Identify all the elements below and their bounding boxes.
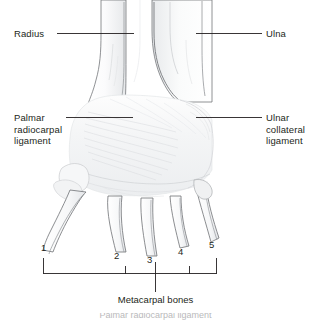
label-radius: Radius [14,28,44,40]
metacarpal-number-3: 3 [147,255,152,265]
metacarpal-number-4: 4 [178,247,183,257]
metacarpal-number-1: 1 [41,243,46,253]
carpal-ligament-complex [69,95,213,197]
forearm-bones [88,0,212,104]
label-ulnar-collateral-ligament: Ulnar collateral ligament [266,112,305,147]
ulna-bone [152,0,212,102]
metacarpal-number-5: 5 [209,240,214,250]
figure-panel: Radius Ulna Palmar radiocarpal ligament … [0,0,311,322]
metacarpal-number-2: 2 [114,251,119,261]
radius-bone [88,0,126,104]
metacarpal-2 [108,196,126,252]
label-ulna: Ulna [266,28,286,40]
figure-caption: Metacarpal bones [0,294,311,305]
footer-note-strip: Palmar radiocarpal ligament [0,313,311,322]
label-palmar-radiocarpal-ligament: Palmar radiocarpal ligament [14,112,62,147]
wrist-anatomy-illustration [0,0,311,322]
metacarpal-4 [170,196,189,248]
metacarpal-3 [141,198,157,256]
footer-note-text: Palmar radiocarpal ligament [0,313,311,320]
